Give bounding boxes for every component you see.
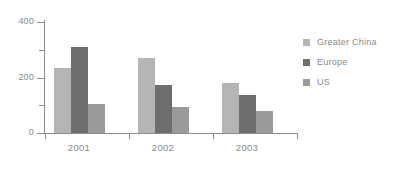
x-axis-category-label: 2002 bbox=[143, 142, 183, 153]
bar bbox=[256, 111, 273, 133]
y-axis-major-tick bbox=[37, 133, 45, 134]
y-axis-tick-label: 200 bbox=[2, 73, 34, 82]
legend-swatch-icon bbox=[303, 79, 310, 86]
legend-item[interactable]: Europe bbox=[303, 54, 403, 70]
legend-swatch-icon bbox=[303, 59, 310, 66]
legend-item-label: Europe bbox=[317, 57, 348, 67]
x-axis-tick bbox=[45, 133, 46, 139]
chart-legend: Greater ChinaEuropeUS bbox=[303, 34, 403, 94]
bar-group bbox=[138, 22, 189, 133]
bar bbox=[239, 95, 256, 133]
x-axis-category-label: 2003 bbox=[227, 142, 267, 153]
y-axis-labels: 0200400 bbox=[0, 0, 34, 171]
y-axis-tick-label: 0 bbox=[2, 128, 34, 137]
x-axis-tick bbox=[213, 133, 214, 139]
legend-swatch-icon bbox=[303, 39, 310, 46]
x-axis-line bbox=[45, 133, 297, 134]
x-axis-tick bbox=[297, 133, 298, 139]
bar bbox=[155, 85, 172, 133]
x-axis-tick bbox=[129, 133, 130, 139]
bar bbox=[138, 58, 155, 133]
bar-group bbox=[222, 22, 273, 133]
bar bbox=[54, 68, 71, 133]
bar bbox=[172, 107, 189, 133]
legend-item[interactable]: US bbox=[303, 74, 403, 90]
y-axis-major-tick bbox=[37, 78, 45, 79]
bar bbox=[71, 47, 88, 133]
y-axis-tick-label: 400 bbox=[2, 17, 34, 26]
bar-chart: 0200400 200120022003 Greater ChinaEurope… bbox=[0, 0, 408, 171]
bar-group bbox=[54, 22, 105, 133]
legend-item-label: Greater China bbox=[317, 37, 377, 47]
bar bbox=[88, 104, 105, 133]
legend-item-label: US bbox=[317, 77, 330, 87]
plot-area bbox=[45, 22, 297, 133]
x-axis-category-label: 2001 bbox=[59, 142, 99, 153]
bar bbox=[222, 83, 239, 134]
legend-item[interactable]: Greater China bbox=[303, 34, 403, 50]
y-axis-major-tick bbox=[37, 22, 45, 23]
